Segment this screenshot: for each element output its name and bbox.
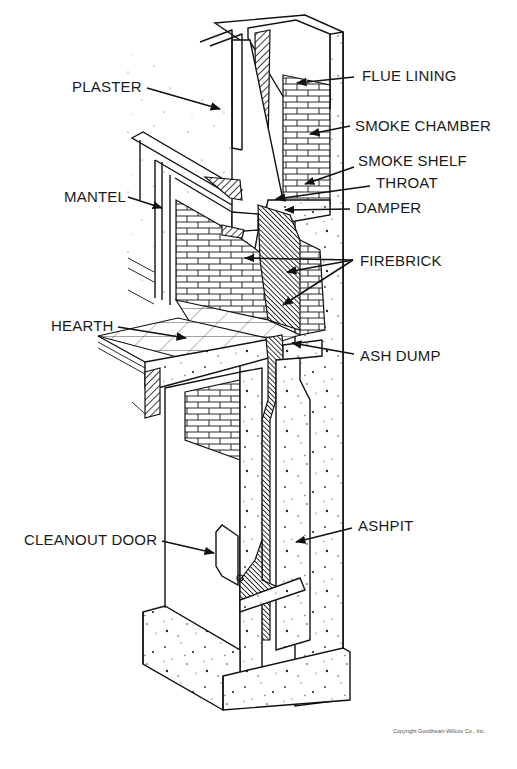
label-damper-text: DAMPER: [356, 199, 421, 216]
label-plaster-text: PLASTER: [72, 78, 142, 95]
leader-damper: [285, 209, 350, 210]
label-hearth-text: HEARTH: [51, 317, 114, 334]
label-throat-text: THROAT: [376, 174, 438, 191]
label-smoke-shelf-text: SMOKE SHELF: [358, 152, 467, 169]
label-firebrick-text: FIREBRICK: [360, 252, 442, 269]
label-flue-lining-text: FLUE LINING: [362, 67, 457, 84]
label-smoke-chamber-text: SMOKE CHAMBER: [355, 117, 491, 134]
label-mantel-text: MANTEL: [64, 188, 126, 205]
label-ashpit-text: ASHPIT: [358, 517, 413, 534]
label-ash-dump-text: ASH DUMP: [360, 347, 441, 364]
copyright-notice: Copyright Goodheart-Willcox Co., Inc.: [393, 728, 486, 734]
fireplace-diagram: PLASTER FLUE LINING SMOKE CHAMBER SMOKE …: [0, 0, 517, 769]
label-cleanout-door-text: CLEANOUT DOOR: [24, 531, 157, 548]
